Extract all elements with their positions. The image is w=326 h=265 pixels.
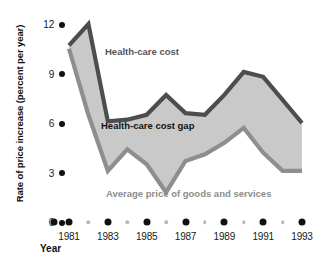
annotation-average-price: Average price of goods and services [106,188,271,199]
annotation-health-care-cost-gap: Health-care cost gap [101,120,194,131]
x-tick-dot-1985 [143,219,150,226]
annotation-health-care-cost: Health-care cost [105,46,179,57]
x-tick-minor-dot-1990 [242,220,246,224]
x-axis-origin-dot [51,219,58,226]
x-tick-label-1987: 1987 [175,231,196,242]
x-tick-minor-dot-1988 [203,220,207,224]
x-tick-label-1983: 1983 [97,231,118,242]
x-tick-minor-dot-1986 [164,220,168,224]
x-tick-minor-dot-1984 [126,220,130,224]
x-tick-label-1991: 1991 [252,231,273,242]
x-tick-minor-dot-1992 [281,220,285,224]
x-tick-dot-1989 [221,219,228,226]
x-axis-ticks: 1981198319851987198919911993 [0,0,326,265]
x-tick-dot-1981 [66,219,73,226]
x-tick-label-1985: 1985 [136,231,157,242]
x-tick-label-1989: 1989 [214,231,235,242]
x-tick-dot-1983 [104,219,111,226]
x-tick-label-1993: 1993 [291,231,312,242]
x-tick-label-1981: 1981 [58,231,79,242]
x-axis-title: Year [40,243,61,254]
x-tick-dot-1991 [260,219,267,226]
x-tick-dot-1993 [299,219,306,226]
chart-container: Rate of price increase (percent per year… [0,0,326,265]
x-tick-dot-1987 [182,219,189,226]
x-tick-minor-dot-1982 [87,220,91,224]
